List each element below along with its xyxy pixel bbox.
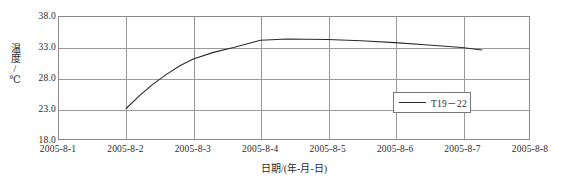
y-axis-tick-label: 23.0	[22, 104, 56, 114]
temperature-line-chart: 温度/℃ 38.033.028.023.018.0 T19－22 2005-8-…	[0, 0, 572, 186]
x-axis-tick-label: 2005-8-3	[175, 144, 211, 155]
x-axis-tick-label: 2005-8-8	[512, 144, 548, 155]
legend-entry-label: T19－22	[431, 96, 467, 110]
x-axis-tick-labels: 2005-8-12005-8-22005-8-32005-8-42005-8-5…	[58, 144, 530, 158]
y-axis-tick-label: 28.0	[22, 73, 56, 83]
x-axis-tick-label: 2005-8-5	[309, 144, 345, 155]
x-axis-tick-label: 2005-8-7	[444, 144, 480, 155]
legend-line-sample-icon	[399, 102, 426, 103]
chart-legend: T19－22	[393, 92, 471, 113]
x-axis-tick-label: 2005-8-6	[377, 144, 413, 155]
y-axis-tick-label: 33.0	[22, 42, 56, 52]
y-axis-tick-label: 38.0	[22, 11, 56, 21]
series-line-layer	[59, 17, 529, 139]
x-axis-tick-label: 2005-8-1	[40, 144, 76, 155]
x-axis-tick-label: 2005-8-4	[242, 144, 278, 155]
x-axis-title: 日期/(年-月-日)	[58, 160, 530, 175]
y-axis-tick-labels: 38.033.028.023.018.0	[18, 0, 56, 186]
plot-area	[58, 16, 530, 140]
x-axis-tick-label: 2005-8-2	[107, 144, 143, 155]
